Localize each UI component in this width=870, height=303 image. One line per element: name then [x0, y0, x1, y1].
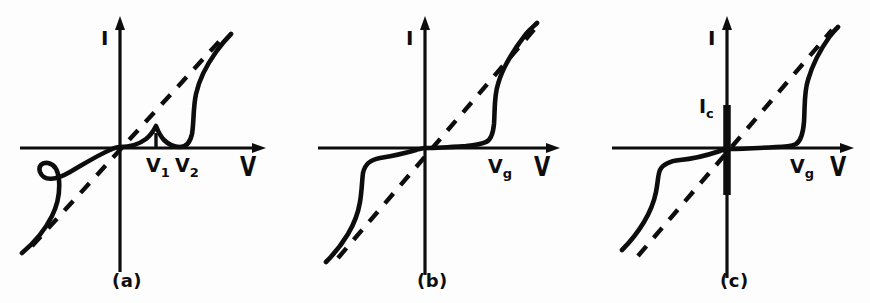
- tick-label-v2-subscript: 2: [190, 165, 199, 180]
- v-axis-arrowhead: [252, 143, 266, 153]
- tick-label-v1: V1: [146, 156, 170, 179]
- i-axis-arrowhead: [115, 16, 125, 30]
- panel-c-plot: [580, 0, 870, 303]
- i-axis-arrowhead: [420, 16, 430, 30]
- tick-label-v1-base: V: [146, 154, 161, 176]
- tick-label-vg-base: V: [790, 155, 805, 177]
- i-axis-arrowhead: [722, 16, 732, 30]
- tick-label-vg: Vg: [790, 157, 814, 180]
- panel-b-caption: (b): [417, 272, 448, 290]
- tick-label-v1-subscript: 1: [161, 165, 170, 180]
- i-axis-label: I: [406, 28, 413, 48]
- v-axis-label: V: [534, 155, 550, 181]
- i-axis-label: I: [708, 28, 715, 48]
- panel-b-plot: [290, 0, 580, 303]
- tick-label-vg-subscript: g: [805, 166, 814, 181]
- v-axis-arrowhead: [840, 143, 854, 153]
- v-axis-arrowhead: [546, 143, 560, 153]
- panel-a: I V V1 V2 (a): [0, 0, 290, 303]
- tick-label-vg-base: V: [488, 155, 503, 177]
- v-axis-label: V: [240, 155, 256, 181]
- tick-label-ic: Ic: [699, 97, 714, 120]
- ohmic-asymptote-dashed: [32, 34, 226, 246]
- panel-c-caption: (c): [720, 272, 749, 290]
- ohmic-asymptote-dashed: [638, 30, 832, 256]
- tick-label-ic-subscript: c: [706, 106, 714, 121]
- iv-characteristics-figure: I V V1 V2 (a) I V Vg (b): [0, 0, 870, 303]
- tick-label-v2-base: V: [175, 154, 190, 176]
- panel-a-caption: (a): [112, 272, 142, 290]
- tick-label-vg: Vg: [488, 157, 512, 180]
- iv-solid-curve: [326, 23, 537, 262]
- panel-b: I V Vg (b): [290, 0, 580, 303]
- tick-label-v2: V2: [175, 156, 199, 179]
- tick-label-vg-subscript: g: [503, 166, 512, 181]
- panel-c: I V Ic Vg (c): [580, 0, 870, 303]
- i-axis-label: I: [101, 28, 108, 48]
- v-axis-label: V: [830, 155, 846, 181]
- panel-a-plot: [0, 0, 290, 303]
